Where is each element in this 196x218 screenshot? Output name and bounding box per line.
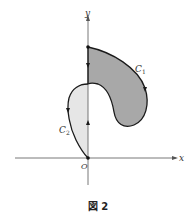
origin-label: O [81, 162, 88, 171]
diagram-figure: y x O C1 C2 図 2 [0, 0, 196, 218]
x-axis-arrow-icon [172, 156, 178, 160]
c2-label: C2 [59, 125, 70, 136]
c1-label: C1 [135, 64, 146, 75]
figure-caption: 図 2 [88, 201, 108, 212]
point-top [86, 45, 90, 49]
x-axis-label: x [179, 153, 184, 163]
point-origin [86, 156, 90, 160]
y-axis-label: y [84, 8, 91, 18]
region-c2 [68, 84, 88, 158]
